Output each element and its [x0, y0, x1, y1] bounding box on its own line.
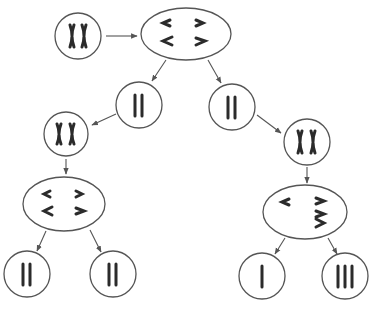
node-parent — [55, 13, 101, 59]
arrow-left-metaphase2-to-gamete-2 — [90, 230, 101, 252]
node-daughter-right — [209, 84, 255, 130]
node-gamete-1 — [4, 251, 50, 297]
node-left-metaphase2 — [23, 177, 105, 231]
chromosome-x-icon — [298, 131, 302, 153]
arrow-daughter-right-to-right-xx — [257, 115, 281, 133]
node-daughter-left — [116, 82, 162, 128]
node-right-xx — [284, 119, 330, 165]
arrow-metaphase1-to-daughter-left — [152, 60, 166, 81]
node-gamete-4 — [322, 253, 368, 299]
chromosome-x-icon — [82, 25, 86, 47]
arrow-metaphase1-to-daughter-right — [208, 60, 221, 83]
chromosome-x-icon — [70, 25, 74, 47]
meiosis-diagram — [0, 0, 374, 311]
arrow-right-metaphase2-to-gamete-4 — [328, 238, 337, 254]
arrow-left-metaphase2-to-gamete-1 — [37, 231, 46, 251]
node-gamete-2 — [90, 251, 136, 297]
node-gamete-3 — [239, 253, 285, 299]
arrow-daughter-left-to-left-xx — [92, 114, 116, 125]
chromosome-x-icon — [57, 124, 61, 144]
node-right-metaphase2 — [263, 185, 347, 239]
node-metaphase1 — [141, 8, 231, 60]
arrow-right-metaphase2-to-gamete-3 — [275, 238, 285, 254]
chromosome-x-icon — [70, 124, 74, 144]
chromosome-x-icon — [311, 131, 315, 153]
node-left-xx — [44, 112, 88, 156]
